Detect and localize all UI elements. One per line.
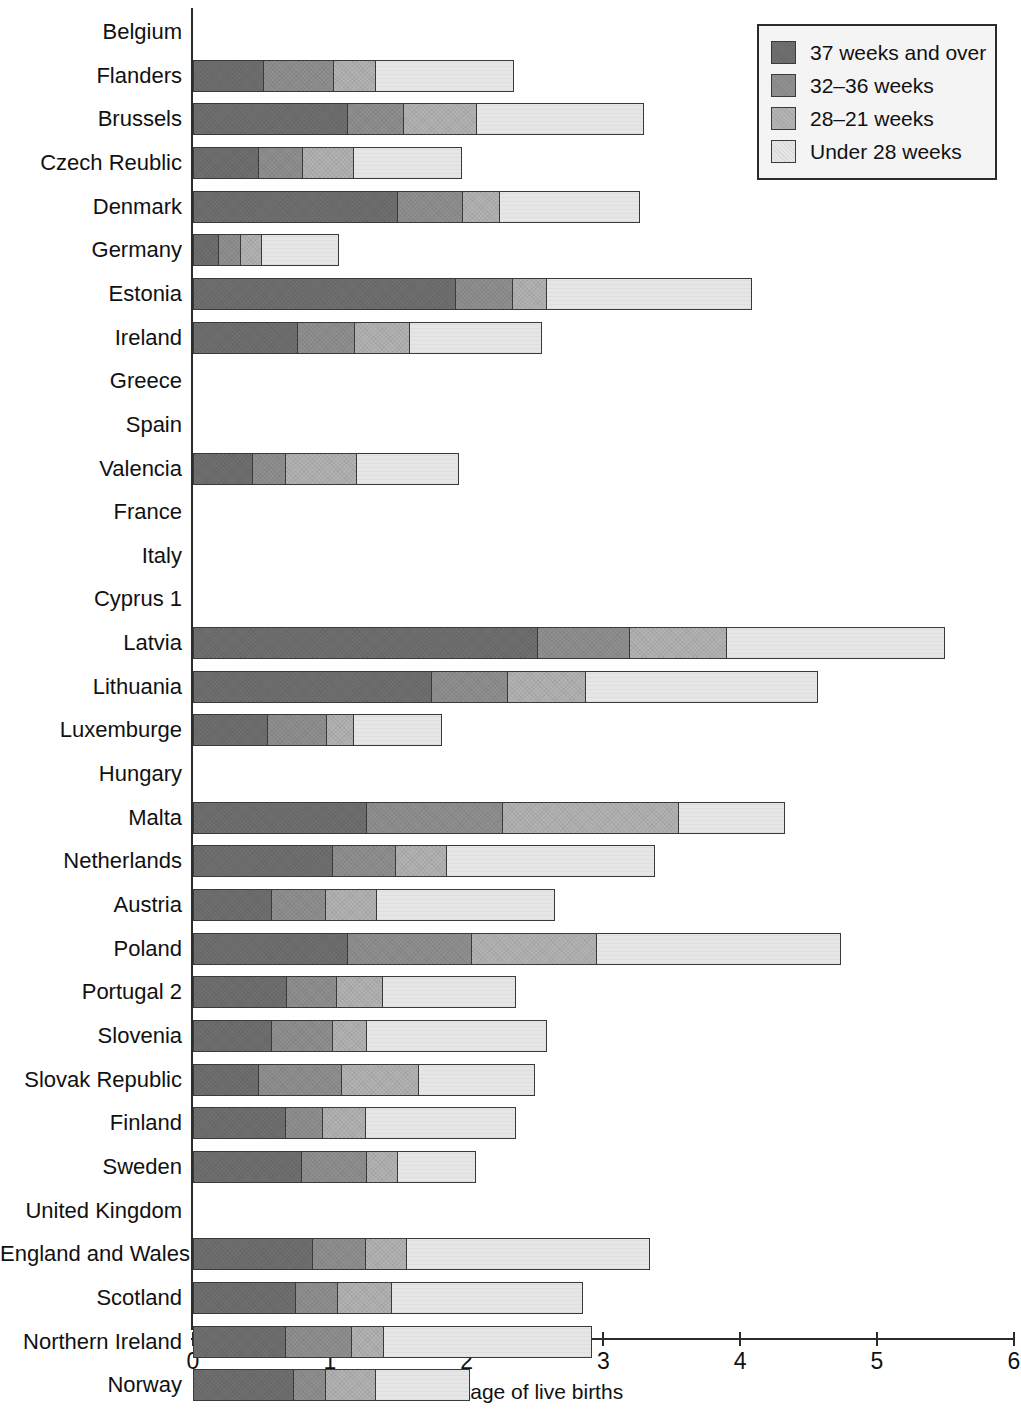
stacked-bar [193, 147, 465, 179]
stacked-bar [193, 1238, 653, 1270]
bar-segment [193, 278, 456, 310]
x-axis-tick-label: 4 [734, 1348, 747, 1375]
category-label: Hungary [0, 752, 182, 796]
stacked-bar [193, 1107, 519, 1139]
bar-segment [678, 802, 785, 834]
legend-item[interactable]: 28–21 weeks [771, 102, 983, 135]
category-label: Netherlands [0, 839, 182, 883]
stacked-bar [193, 1369, 473, 1401]
category-label: Germany [0, 228, 182, 272]
bar-segment [252, 453, 286, 485]
bar-row: Poland [0, 927, 1021, 971]
legend-item[interactable]: Under 28 weeks [771, 135, 983, 168]
bar-segment [512, 278, 546, 310]
bar-segment [295, 1282, 339, 1314]
stacked-bar [193, 976, 519, 1008]
bar-segment [332, 845, 396, 877]
bar-segment [193, 845, 333, 877]
bar-segment [499, 191, 640, 223]
bar-segment [325, 1369, 376, 1401]
bar-segment [431, 671, 508, 703]
stacked-bar [193, 60, 517, 92]
bar-segment [258, 147, 303, 179]
x-axis-tick [739, 1332, 741, 1346]
stacked-bar [193, 1064, 538, 1096]
bar-segment [409, 322, 542, 354]
category-label: Latvia [0, 621, 182, 665]
bar-segment [193, 802, 367, 834]
category-label: Flanders [0, 54, 182, 98]
bar-segment [383, 1326, 592, 1358]
category-label: Italy [0, 534, 182, 578]
legend-item[interactable]: 32–36 weeks [771, 69, 983, 102]
bar-segment [629, 627, 727, 659]
bar-segment [326, 714, 353, 746]
bar-row: Latvia [0, 621, 1021, 665]
bar-segment [726, 627, 945, 659]
bar-segment [263, 60, 334, 92]
bar-segment [397, 191, 463, 223]
bar-segment [322, 1107, 366, 1139]
bar-segment [267, 714, 327, 746]
x-axis-title: Percentage of live births [0, 1380, 1021, 1404]
x-axis-tick [1013, 1332, 1015, 1346]
bar-segment [418, 1064, 534, 1096]
legend-swatch-icon [771, 74, 796, 97]
bar-segment [193, 191, 398, 223]
bar-segment [356, 453, 460, 485]
stacked-bar [193, 1020, 550, 1052]
category-label: Denmark [0, 185, 182, 229]
bar-segment [193, 103, 348, 135]
bar-segment [332, 1020, 368, 1052]
bar-segment [271, 1020, 333, 1052]
stacked-bar [193, 671, 821, 703]
bar-segment [193, 933, 348, 965]
category-label: Poland [0, 927, 182, 971]
stacked-bar [193, 453, 462, 485]
x-axis-tick [876, 1332, 878, 1346]
bar-segment [285, 1326, 352, 1358]
bar-segment [366, 1020, 547, 1052]
bar-segment [351, 1326, 384, 1358]
category-label: England and Wales 3 [0, 1232, 182, 1276]
legend-item[interactable]: 37 weeks and over [771, 36, 983, 69]
bar-row: Malta [0, 796, 1021, 840]
bar-segment [455, 278, 514, 310]
bar-row: Valencia [0, 447, 1021, 491]
category-label: France [0, 490, 182, 534]
category-label: Austria [0, 883, 182, 927]
bar-segment [462, 191, 500, 223]
bar-row: Denmark [0, 185, 1021, 229]
bar-segment [285, 453, 356, 485]
bar-segment [193, 627, 538, 659]
bar-row: Scotland [0, 1276, 1021, 1320]
bar-segment [193, 322, 298, 354]
bar-segment [341, 1064, 419, 1096]
bar-row: Luxemburge [0, 708, 1021, 752]
bar-segment [397, 1151, 476, 1183]
bar-segment [301, 1151, 367, 1183]
category-label: Slovak Republic [0, 1058, 182, 1102]
bar-segment [476, 103, 644, 135]
category-label: Cyprus 1 [0, 577, 182, 621]
stacked-bar [193, 714, 445, 746]
x-axis-tick-label: 5 [871, 1348, 884, 1375]
bar-row: Germany [0, 228, 1021, 272]
bar-segment [333, 60, 375, 92]
bar-row: Slovenia [0, 1014, 1021, 1058]
bar-row: Lithuania [0, 665, 1021, 709]
category-label: Lithuania [0, 665, 182, 709]
bar-segment [193, 1369, 294, 1401]
category-label: Luxemburge [0, 708, 182, 752]
bar-segment [391, 1282, 583, 1314]
bar-row: United Kingdom [0, 1189, 1021, 1233]
legend-swatch-icon [771, 41, 796, 64]
bar-segment [240, 234, 262, 266]
bar-segment [502, 802, 680, 834]
category-label: Belgium [0, 10, 182, 54]
bar-segment [286, 976, 337, 1008]
bar-segment [312, 1238, 365, 1270]
x-axis-tick [602, 1332, 604, 1346]
bar-segment [193, 1238, 313, 1270]
category-label: Ireland [0, 316, 182, 360]
